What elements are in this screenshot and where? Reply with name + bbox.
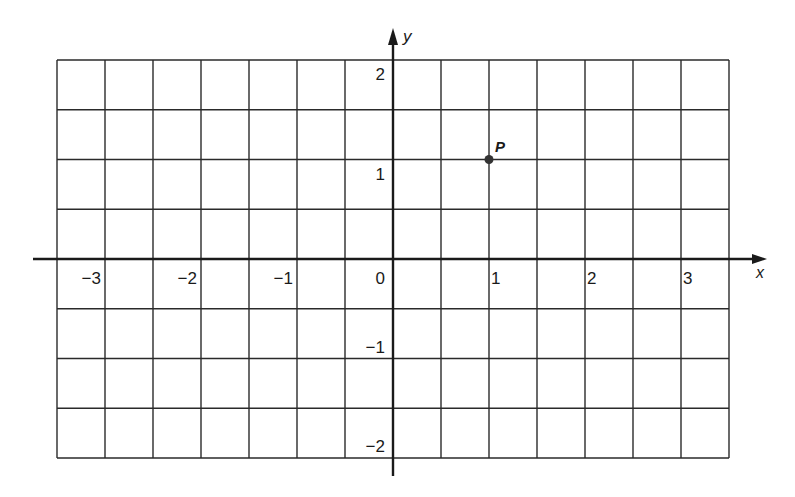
- y-tick-label: −1: [366, 338, 385, 357]
- x-tick-label: −2: [178, 269, 197, 288]
- x-tick-label: −1: [274, 269, 293, 288]
- x-axis-label: x: [755, 264, 765, 281]
- x-tick-label: 3: [683, 269, 692, 288]
- tick-labels: −3−2−1012321−1−2: [82, 65, 693, 456]
- x-tick-label: 2: [587, 269, 596, 288]
- coordinate-grid-svg: xy −3−2−1012321−1−2 P: [0, 0, 795, 497]
- x-tick-label: −3: [82, 269, 101, 288]
- x-tick-label: 1: [491, 269, 500, 288]
- x-axis-arrow-icon: [752, 254, 767, 264]
- y-tick-label: 1: [376, 165, 385, 184]
- origin-label: 0: [376, 269, 385, 288]
- point-marker: [485, 155, 494, 164]
- y-tick-label: −2: [366, 437, 385, 456]
- y-tick-label: 2: [376, 65, 385, 84]
- coordinate-plane: xy −3−2−1012321−1−2 P: [0, 0, 795, 497]
- y-axis-label: y: [402, 27, 413, 46]
- y-axis-arrow-icon: [388, 28, 398, 45]
- point-label: P: [495, 138, 506, 155]
